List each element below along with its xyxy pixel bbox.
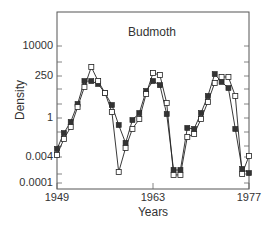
open-square-marker (89, 65, 94, 70)
y-tick-label: 0.0001 (3, 176, 53, 188)
open-square-marker (103, 91, 108, 96)
x-tick-label: 1949 (37, 191, 77, 203)
filled-square-marker (171, 167, 176, 172)
open-square-marker (61, 137, 66, 142)
open-square-marker (192, 132, 197, 137)
filled-square-marker (178, 167, 183, 172)
open-square-marker (157, 73, 162, 78)
filled-square-marker (68, 119, 73, 124)
filled-square-marker (199, 111, 204, 116)
filled-square-marker (185, 125, 190, 130)
filled-square-marker (247, 171, 252, 176)
filled-square-marker (192, 126, 197, 131)
open-square-marker (185, 134, 190, 139)
filled-square-marker (61, 131, 66, 136)
filled-square-marker (240, 166, 245, 171)
open-square-marker (144, 92, 149, 97)
open-square-marker (82, 85, 87, 90)
filled-square-marker (219, 79, 224, 84)
filled-square-marker (157, 83, 162, 88)
x-tick-label: 1963 (133, 191, 173, 203)
open-square-marker (137, 117, 142, 122)
filled-square-marker (205, 93, 210, 98)
open-square-marker (109, 110, 114, 115)
open-square-marker (205, 99, 210, 104)
open-square-marker (96, 79, 101, 84)
filled-square-marker (137, 111, 142, 116)
filled-square-marker (116, 123, 121, 128)
filled-square-marker (82, 79, 87, 84)
chart-title: Budmoth (128, 25, 176, 39)
open-square-marker (130, 126, 135, 131)
filled-square-marker (233, 126, 238, 131)
filled-square-marker (226, 86, 231, 91)
x-tick-label: 1977 (229, 191, 269, 203)
open-square-marker (164, 100, 169, 105)
open-square-marker (75, 105, 80, 110)
filled-square-marker (212, 72, 217, 77)
open-square-marker (123, 145, 128, 150)
y-tick-label: 250 (3, 69, 53, 81)
open-square-marker (199, 117, 204, 122)
filled-square-marker (109, 103, 114, 108)
open-square-marker (151, 71, 156, 76)
filled-square-marker (164, 112, 169, 117)
open-square-marker (233, 93, 238, 98)
open-square-marker (212, 80, 217, 85)
y-tick-label: 0.004 (3, 150, 53, 162)
filled-square-marker (89, 79, 94, 84)
filled-square-marker (55, 146, 60, 151)
open-square-marker (55, 152, 60, 157)
open-square-marker (226, 74, 231, 79)
filled-square-marker (123, 140, 128, 145)
y-tick-label: 1 (3, 111, 53, 123)
filled-square-marker (130, 118, 135, 123)
open-square-marker (68, 125, 73, 130)
x-axis-label: Years (138, 205, 168, 219)
open-square-marker (171, 172, 176, 177)
y-tick-label: 10000 (3, 39, 53, 51)
open-square-marker (219, 74, 224, 79)
open-square-marker (247, 153, 252, 158)
open-square-marker (240, 171, 245, 176)
open-square-marker (178, 172, 183, 177)
open-square-marker (116, 170, 121, 175)
filled-square-marker (151, 79, 156, 84)
